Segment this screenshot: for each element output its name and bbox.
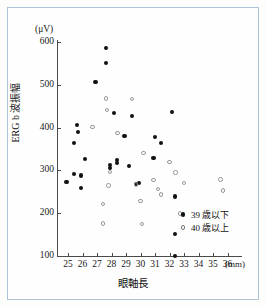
y-tick-label-400: 400 [30,123,54,132]
y-tick-500 [57,85,61,86]
y-axis-line [57,40,58,257]
x-tick-26 [83,253,84,257]
y-tick-label-500: 500 [30,80,54,89]
legend: 39 歳以下40 歳以上 [178,208,229,234]
legend-label: 40 歳以上 [191,221,229,234]
data-point [218,177,222,181]
figure-container: (μV) 100200300400500600 2526272829303132… [0,0,266,307]
data-point [173,194,177,198]
data-point [64,180,68,184]
data-point [106,183,110,187]
data-point [115,131,119,135]
y-tick-label-300: 300 [30,165,54,174]
data-point [104,96,108,100]
x-tick-28 [112,253,113,257]
y-tick-600 [57,42,61,43]
x-tick-31 [155,253,156,257]
y-tick-label-200: 200 [30,208,54,217]
data-point [72,172,76,176]
data-point [79,173,83,177]
data-point [159,141,163,145]
data-point [104,46,108,50]
data-point [153,135,157,139]
data-point [76,130,80,134]
data-point [151,178,155,182]
data-point [141,151,145,155]
data-point [108,170,112,174]
legend-item-2: 40 歳以上 [178,221,229,234]
y-tick-label-100: 100 [30,251,54,260]
data-point [156,187,160,191]
data-point [90,125,94,129]
x-axis-title: 眼軸長 [0,275,266,290]
data-point [138,199,142,203]
filled-circle-icon [178,212,188,216]
data-point [140,222,144,226]
data-point [134,182,138,186]
x-tick-25 [68,253,69,257]
data-point [130,114,134,118]
data-point [173,254,177,258]
y-tick-label-600: 600 [30,37,54,46]
legend-item-1: 39 歳以下 [178,208,229,221]
x-tick-29 [126,253,127,257]
y-tick-400 [57,128,61,129]
x-tick-27 [97,253,98,257]
plot-area: (μV) 100200300400500600 2526272829303132… [0,0,266,307]
data-point [122,134,126,138]
data-point [151,156,155,160]
data-point [127,164,131,168]
y-axis-title: ERG b 波振幅 [7,63,22,163]
data-point [104,61,108,65]
data-point [112,111,116,115]
data-point [173,232,177,236]
data-point [79,186,83,190]
x-axis-unit-label: (mm) [225,259,245,269]
data-point [101,202,105,206]
data-point [75,123,79,127]
y-tick-100 [57,256,61,257]
data-point [115,161,119,165]
data-point [93,80,97,84]
x-tick-34 [199,253,200,257]
y-tick-200 [57,213,61,214]
data-point [170,110,174,114]
open-circle-icon [178,225,188,229]
data-point [173,170,177,174]
data-point [101,221,105,225]
y-axis-unit-label: (μV) [35,24,53,34]
data-point [130,97,134,101]
data-point [72,141,76,145]
x-tick-35 [213,253,214,257]
x-tick-32 [170,253,171,257]
data-point [159,192,163,196]
x-tick-33 [184,253,185,257]
x-tick-36 [228,253,229,257]
legend-label: 39 歳以下 [191,208,229,221]
data-point [83,157,87,161]
data-point [182,181,186,185]
x-tick-30 [141,253,142,257]
y-tick-300 [57,170,61,171]
data-point [167,160,171,164]
data-point [105,108,109,112]
x-axis-line [57,256,242,257]
data-point [221,188,225,192]
